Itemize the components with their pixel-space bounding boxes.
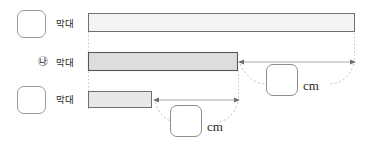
answer-box-lower[interactable] [170,105,202,137]
unit-label-lower: cm [207,120,223,133]
leader-upper-right [330,64,354,84]
arrowhead-upper-left [238,59,244,64]
bar-label-middle: 막대 [56,58,74,68]
bar-label-bottom: 막대 [56,95,74,105]
bar-label-top: 막대 [56,19,74,29]
answer-box-upper[interactable] [266,64,298,96]
marker-box-top[interactable] [17,10,46,38]
bar-bottom [89,92,152,108]
arrowhead-lower-left [153,97,159,102]
marker-box-bottom[interactable] [17,86,46,114]
bar-middle [89,53,238,71]
unit-label-upper: cm [303,79,319,92]
arrowhead-lower-right [234,97,240,102]
arrowhead-upper-right [350,59,356,64]
figure-canvas: 막대 ㉯ 막대 막대 cm cm [0,0,372,150]
bar-top [89,14,355,32]
marker-circled-middle: ㉯ [38,57,48,67]
leader-upper-left [240,64,266,84]
